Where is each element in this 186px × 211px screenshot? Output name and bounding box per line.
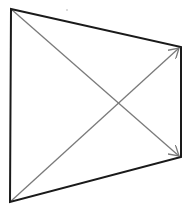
speck-mark [66, 9, 68, 11]
quadrilateral-diagram [0, 0, 186, 211]
arrow-top-left-to-bottom-right [11, 9, 179, 156]
diagram-canvas [0, 0, 186, 211]
quadrilateral-outline [10, 9, 181, 202]
